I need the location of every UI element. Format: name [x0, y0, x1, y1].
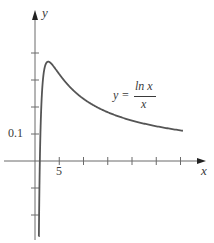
y-axis-arrow-icon	[32, 10, 38, 20]
curve-ln-x-over-x	[38, 62, 182, 236]
x-tick-label-5: 5	[56, 164, 62, 179]
annotation-numerator: ln x	[135, 79, 153, 94]
x-axis-label: x	[201, 163, 207, 179]
y-tick-label-0-1: 0.1	[8, 126, 23, 141]
annotation-lhs: y =	[113, 88, 129, 103]
chart-canvas	[0, 0, 214, 243]
axes	[4, 10, 206, 240]
y-axis-label: y	[42, 5, 48, 21]
annotation-denominator: x	[141, 97, 146, 112]
ticks	[31, 53, 181, 215]
